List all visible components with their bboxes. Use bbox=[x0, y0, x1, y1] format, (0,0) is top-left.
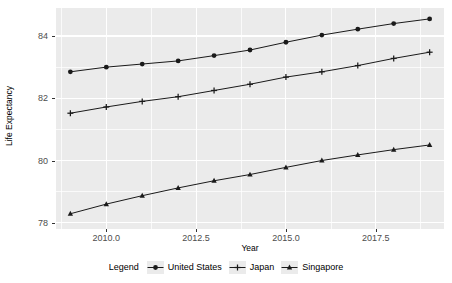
data-point-marker bbox=[355, 63, 361, 69]
x-axis-tick-label: 2012.5 bbox=[182, 234, 210, 243]
x-axis-tick-label: 2015.0 bbox=[272, 234, 300, 243]
legend-marker-plus-icon bbox=[229, 261, 246, 274]
y-axis-tick-mark bbox=[52, 223, 55, 224]
legend-key-singapore[interactable]: Singapore bbox=[281, 261, 343, 274]
data-point-marker bbox=[283, 74, 289, 80]
y-axis-tick-mark bbox=[52, 36, 55, 37]
data-point-marker bbox=[103, 104, 109, 110]
data-point-marker bbox=[212, 53, 217, 58]
data-point-marker bbox=[67, 110, 73, 116]
series-line bbox=[70, 19, 429, 72]
plot-panel bbox=[56, 8, 444, 229]
data-point-marker bbox=[139, 98, 145, 104]
data-point-marker bbox=[175, 94, 181, 100]
data-point-marker bbox=[391, 55, 397, 61]
series-line bbox=[70, 145, 429, 214]
data-point-marker bbox=[284, 40, 289, 45]
series-united-states bbox=[68, 16, 432, 74]
data-point-marker bbox=[427, 16, 432, 21]
data-point-marker bbox=[247, 81, 253, 87]
legend-label: United States bbox=[168, 262, 222, 272]
data-point-marker bbox=[319, 33, 324, 38]
data-point-marker bbox=[391, 21, 396, 26]
y-axis-tick-label: 80 bbox=[18, 156, 48, 165]
data-point-marker bbox=[140, 62, 145, 67]
x-axis-title-label: Year bbox=[241, 243, 258, 253]
chart-legend: Legend United StatesJapanSingapore bbox=[0, 258, 452, 276]
legend-label: Japan bbox=[250, 262, 275, 272]
y-axis-tick-label: 82 bbox=[18, 94, 48, 103]
y-axis-tick-mark bbox=[52, 161, 55, 162]
data-point-marker bbox=[355, 27, 360, 32]
life-expectancy-line-chart: Life Expectancy 78808284 2010.02012.5201… bbox=[0, 0, 452, 283]
data-point-marker bbox=[248, 48, 253, 53]
data-point-marker bbox=[68, 69, 73, 74]
series-singapore bbox=[68, 142, 433, 216]
data-point-marker bbox=[319, 69, 325, 75]
legend-marker-circle-icon bbox=[147, 261, 164, 274]
legend-title: Legend bbox=[109, 262, 139, 272]
series-plot-area bbox=[56, 8, 444, 229]
y-axis-title: Life Expectancy bbox=[0, 0, 18, 232]
legend-key-japan[interactable]: Japan bbox=[229, 261, 275, 274]
data-point-marker bbox=[427, 49, 433, 55]
x-axis-tick-label: 2010.0 bbox=[93, 234, 121, 243]
x-axis-title: Year bbox=[56, 243, 444, 253]
x-axis-tick-mark bbox=[196, 229, 197, 232]
data-point-marker bbox=[176, 59, 181, 64]
y-axis-tick-labels: 78808284 bbox=[18, 0, 48, 232]
data-point-marker bbox=[104, 65, 109, 70]
data-point-marker bbox=[211, 87, 217, 93]
y-axis-tick-label: 78 bbox=[18, 218, 48, 227]
series-japan bbox=[67, 49, 432, 116]
y-axis-tick-mark bbox=[52, 98, 55, 99]
data-point-marker bbox=[427, 142, 432, 147]
x-axis-tick-mark bbox=[376, 229, 377, 232]
x-axis-tick-label: 2017.5 bbox=[362, 234, 390, 243]
y-axis-title-label: Life Expectancy bbox=[4, 86, 14, 146]
legend-key-united-states[interactable]: United States bbox=[147, 261, 222, 274]
legend-marker-triangle-icon bbox=[281, 261, 298, 274]
x-axis-tick-mark bbox=[286, 229, 287, 232]
x-axis-tick-mark bbox=[106, 229, 107, 232]
y-axis-tick-label: 84 bbox=[18, 32, 48, 41]
legend-label: Singapore bbox=[302, 262, 343, 272]
